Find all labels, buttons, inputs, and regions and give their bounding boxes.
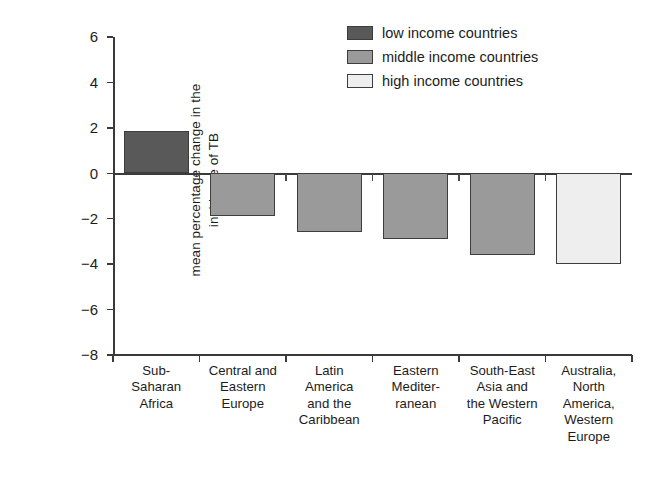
x-tick <box>285 355 286 362</box>
legend-item-high-income: high income countries <box>347 69 607 92</box>
x-axis-category-label: Australia,NorthAmerica,WesternEurope <box>538 363 641 445</box>
bar <box>210 173 275 216</box>
y-tick-label: −8 <box>81 346 98 363</box>
category-label-line: Western <box>538 412 641 428</box>
legend-label-middle-income: middle income countries <box>382 49 538 65</box>
legend-label-low-income: low income countries <box>382 25 517 41</box>
y-tick-label: 2 <box>90 119 98 136</box>
x-tick <box>199 355 200 362</box>
zero-tick <box>545 174 546 181</box>
legend: low income countries middle income count… <box>347 21 607 93</box>
legend-item-low-income: low income countries <box>347 21 607 44</box>
category-label-line: America, <box>538 396 641 412</box>
bar <box>470 173 535 255</box>
y-tick: −2 <box>107 218 113 219</box>
y-tick-label: 4 <box>90 73 98 90</box>
y-tick: 6 <box>107 36 113 37</box>
zero-tick <box>458 174 459 181</box>
zero-tick <box>285 174 286 181</box>
y-axis-title: mean percentage change in the incidence … <box>2 0 62 360</box>
legend-item-middle-income: middle income countries <box>347 45 607 68</box>
bar <box>383 173 448 239</box>
y-tick-label: 6 <box>90 28 98 45</box>
x-tick <box>631 355 632 362</box>
legend-label-high-income: high income countries <box>382 73 523 89</box>
y-tick-label: −2 <box>81 210 98 227</box>
y-tick: 0 <box>107 173 113 174</box>
x-tick <box>372 355 373 362</box>
category-label-line: Europe <box>538 429 641 445</box>
legend-swatch-low-income <box>347 26 373 40</box>
y-tick: −6 <box>107 309 113 310</box>
bar <box>124 131 189 173</box>
x-tick <box>458 355 459 362</box>
y-tick-label: −4 <box>81 255 98 272</box>
category-label-line: Australia, <box>538 363 641 379</box>
y-tick-label: 0 <box>90 164 98 181</box>
bar <box>556 173 621 264</box>
category-label-line: Caribbean <box>278 412 381 428</box>
y-tick: −4 <box>107 263 113 264</box>
y-tick-label: −6 <box>81 300 98 317</box>
category-label-line: North <box>538 379 641 395</box>
zero-tick <box>199 174 200 181</box>
x-tick <box>545 355 546 362</box>
y-tick: 4 <box>107 82 113 83</box>
y-tick: 2 <box>107 127 113 128</box>
legend-swatch-high-income <box>347 74 373 88</box>
zero-tick <box>372 174 373 181</box>
y-axis-line <box>113 37 115 355</box>
bar <box>297 173 362 232</box>
legend-swatch-middle-income <box>347 50 373 64</box>
tb-incidence-bar-chart: mean percentage change in the incidence … <box>0 0 648 482</box>
x-tick <box>112 355 113 362</box>
